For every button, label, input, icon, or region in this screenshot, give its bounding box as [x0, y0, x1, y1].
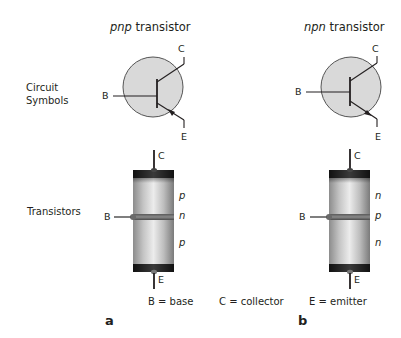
pnp-layer-middle: n — [179, 210, 185, 221]
pnp-symbol-label-e: E — [181, 131, 187, 142]
legend-collector: C = collector — [219, 296, 284, 307]
npn-cyl-label-c: C — [354, 150, 361, 161]
legend-emitter: E = emitter — [309, 296, 367, 307]
npn-layer-middle: p — [375, 210, 381, 221]
pnp-cyl-label-b: B — [104, 211, 111, 222]
panel-label-a: a — [105, 313, 114, 328]
npn-layer-top: n — [375, 190, 381, 201]
pnp-circuit-symbol — [113, 57, 184, 128]
npn-layer-bottom: n — [375, 237, 381, 248]
pnp-symbol-label-b: B — [102, 90, 109, 101]
pnp-cyl-label-c: C — [158, 150, 165, 161]
pnp-top-contact — [151, 168, 157, 172]
npn-cyl-label-e: E — [354, 274, 360, 285]
pnp-body — [133, 171, 174, 271]
npn-body — [329, 171, 370, 271]
npn-symbol-label-e: E — [375, 131, 381, 142]
pnp-symbol-circle — [123, 57, 183, 117]
npn-base-band — [329, 214, 370, 220]
diagram-graphics — [0, 0, 401, 338]
npn-top-contact — [347, 168, 353, 172]
pnp-layer-bottom: p — [179, 237, 185, 248]
npn-symbol-label-c: C — [372, 43, 379, 54]
legend-base: B = base — [148, 296, 193, 307]
npn-transistor-cylinder — [310, 149, 370, 289]
npn-symbol-label-b: B — [295, 86, 302, 97]
npn-circuit-symbol — [306, 56, 381, 127]
pnp-layer-top: p — [179, 190, 185, 201]
pnp-transistor-cylinder — [114, 150, 174, 289]
panel-label-b: b — [298, 313, 307, 328]
pnp-base-band — [133, 214, 174, 220]
pnp-symbol-label-c: C — [178, 43, 185, 54]
npn-cyl-label-b: B — [299, 211, 306, 222]
pnp-cyl-label-e: E — [158, 274, 164, 285]
